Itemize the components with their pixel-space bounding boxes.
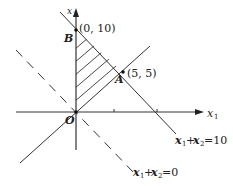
label-A-coords: (5, 5): [127, 67, 157, 80]
point-B: [74, 28, 78, 32]
label-line-x1-plus-x2-eq-10: x 1 + x 2 =10: [174, 134, 227, 148]
svg-text:1: 1: [214, 113, 218, 121]
svg-text:=10: =10: [204, 134, 227, 147]
line-x2-eq-x1: [20, 46, 150, 163]
svg-text:x: x: [192, 134, 200, 147]
svg-text:x: x: [67, 6, 72, 16]
label-A: A: [114, 73, 124, 86]
label-x1-axis: x 1: [207, 107, 218, 121]
svg-text:x: x: [174, 134, 182, 147]
shaded-region: [60, 2, 130, 127]
line-x1-plus-x2-eq-0: [16, 50, 133, 172]
x1-arrow-icon: [195, 109, 204, 115]
label-origin: O: [65, 114, 75, 127]
svg-text:x: x: [150, 166, 158, 179]
lp-diagram: (0, 10) B (5, 5) A O x 2 x 1 x 1 + x 2 =…: [0, 0, 233, 186]
svg-text:=0: =0: [162, 166, 178, 179]
label-x2-axis: x 2: [67, 6, 77, 17]
label-B: B: [63, 32, 73, 45]
svg-text:2: 2: [73, 10, 77, 17]
point-O: [74, 110, 78, 114]
label-B-coords: (0, 10): [79, 22, 116, 35]
svg-text:x: x: [132, 166, 140, 179]
svg-text:x: x: [207, 107, 214, 120]
label-line-x1-plus-x2-eq-0: x 1 + x 2 =0: [132, 166, 178, 180]
